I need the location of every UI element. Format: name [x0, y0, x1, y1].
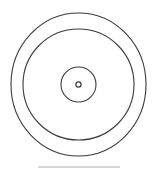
center-dot-ring [76, 82, 81, 87]
inner-ring [61, 67, 96, 102]
outer-ring [11, 13, 146, 156]
second-ring [23, 29, 134, 140]
figure-canvas: Concentric circles target diagram Line d… [0, 0, 157, 174]
concentric-circles-diagram [0, 0, 157, 174]
